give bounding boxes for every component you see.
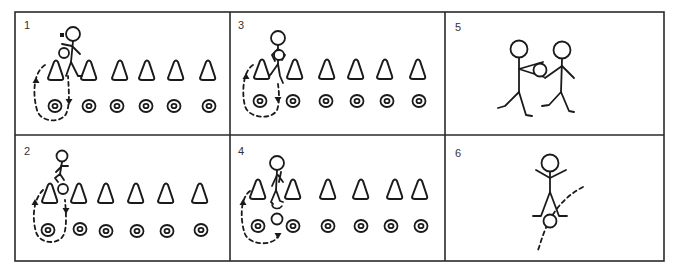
- panel-6-ball: [544, 215, 557, 228]
- panel-label-6: 6: [455, 147, 461, 159]
- panel-3-ring-5: [381, 95, 394, 107]
- panel-1-cone-6: [200, 61, 215, 81]
- panel-3-cone-3: [319, 60, 334, 80]
- panel-1-ring-1: [49, 100, 62, 112]
- player-head: [66, 27, 80, 41]
- panel-2-ring-6: [195, 224, 208, 236]
- panel-4-cone-6: [412, 180, 427, 200]
- panel-1-ring-2: [83, 100, 96, 112]
- panel-2-ring-2: [74, 223, 87, 235]
- panel-2-cone-6: [192, 184, 207, 204]
- panel-label-3: 3: [238, 19, 244, 31]
- panel-3-arrow-down-icon: [275, 97, 282, 103]
- panel-3-ring-2: [287, 95, 300, 107]
- panel-4-arrow-down-icon: [275, 233, 282, 239]
- panel-3-cone-2: [287, 60, 302, 80]
- panel-4-ball: [272, 214, 283, 225]
- panel-3-ball: [274, 50, 284, 60]
- panel-3-cone-1: [254, 60, 269, 80]
- panel-2-arrow-down-icon: [63, 208, 70, 214]
- panel-5-player-receiver: [542, 42, 574, 113]
- panel-1-cone-3: [112, 61, 127, 81]
- panel-1-ball: [59, 48, 69, 58]
- panel-3-ring-3: [320, 95, 333, 107]
- panel-4-player: [270, 156, 284, 209]
- panel-label-1: 1: [24, 19, 30, 31]
- player-head: [57, 151, 68, 162]
- panel-3-ring-4: [351, 95, 364, 107]
- player-head: [554, 42, 571, 59]
- panel-6-player: [533, 155, 567, 217]
- panel-4-ring-4: [355, 220, 368, 232]
- player-head: [270, 156, 284, 170]
- player-head: [511, 41, 528, 58]
- panel-4-cone-1: [250, 180, 265, 200]
- panel-5-player-passer: [498, 41, 544, 117]
- dashed-paths: [32, 65, 584, 250]
- panel-4-ring-3: [322, 220, 335, 232]
- panel-2-player: [55, 151, 68, 183]
- panel-1-ring-3: [111, 100, 124, 112]
- panel-2-ring-4: [131, 225, 144, 237]
- panel-5-ball: [534, 64, 547, 77]
- panel-1-ring-4: [140, 100, 153, 112]
- panel-2-ball: [58, 184, 68, 194]
- panel-grid: [15, 12, 664, 261]
- panel-4-ring-5: [385, 220, 398, 232]
- panel-3-ring-6: [413, 95, 426, 107]
- panel-4-ring-6: [415, 220, 428, 232]
- panel-label-5: 5: [455, 21, 461, 33]
- panel-1-cone-5: [168, 61, 183, 81]
- panel-2-ring-5: [161, 225, 174, 237]
- panel-1-arrow-down-icon: [66, 99, 73, 105]
- panel-4-ring-1: [252, 220, 265, 232]
- panel-1-ring-6: [203, 100, 216, 112]
- panel-4-cone-5: [387, 180, 402, 200]
- panel-3-cone-4: [348, 60, 363, 80]
- drill-diagram: 1 2 3 4 5 6: [0, 0, 680, 273]
- panel-4-cone-3: [320, 180, 335, 200]
- panel-1-cone-4: [139, 61, 154, 81]
- panel-1-cone-1: [48, 61, 63, 81]
- panel-4-ring-2: [287, 220, 300, 232]
- panel-1-arrow-up-icon: [33, 77, 40, 83]
- panel-1-ring-5: [168, 100, 181, 112]
- panel-2-ring-3: [100, 225, 113, 237]
- cones: [42, 60, 427, 204]
- panel-2-cone-4: [128, 184, 143, 204]
- player-head: [271, 31, 285, 45]
- panel-4-cone-2: [285, 180, 300, 200]
- panel-3-arrow-up-icon: [243, 73, 250, 79]
- panel-2-cone-5: [158, 184, 173, 204]
- marker-icon: [60, 33, 64, 37]
- panel-1-cone-2: [81, 61, 96, 81]
- panel-2-cone-2: [71, 184, 86, 204]
- panel-4-cone-4: [353, 180, 368, 200]
- outer-border: [15, 12, 664, 261]
- rings: [42, 95, 428, 237]
- player-head: [542, 155, 559, 172]
- panel-label-4: 4: [238, 145, 244, 157]
- panel-3-cone-6: [410, 60, 425, 80]
- panel-3-ring-1: [254, 95, 267, 107]
- panel-2-cone-1: [42, 184, 57, 204]
- panel-4-arrow-up-icon: [240, 199, 247, 205]
- panel-2-cone-3: [98, 184, 113, 204]
- panel-3-cone-5: [377, 60, 392, 80]
- panel-2-ring-1: [42, 224, 55, 236]
- panel-label-2: 2: [24, 145, 30, 157]
